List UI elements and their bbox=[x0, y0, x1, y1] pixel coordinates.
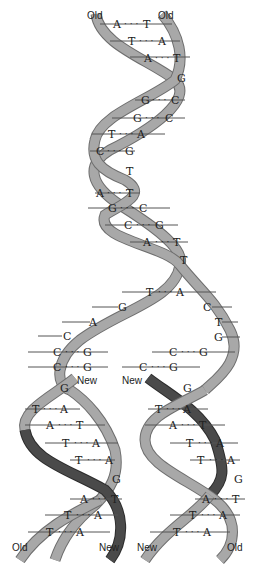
dots: · · · bbox=[92, 494, 106, 504]
dna-replication-diagram: A · · · T T · · · A A · · · T G G · · · … bbox=[0, 0, 264, 575]
dots: · · · bbox=[145, 113, 159, 123]
label-new-fork-right: New bbox=[122, 375, 143, 386]
label-old-top-left: Old bbox=[87, 10, 103, 21]
base: A bbox=[104, 454, 114, 467]
dots: · · · bbox=[201, 510, 215, 520]
base: T bbox=[215, 316, 223, 329]
dots: · · · bbox=[65, 362, 79, 372]
dots: · · · bbox=[58, 527, 72, 537]
base: A bbox=[201, 493, 211, 506]
base: A bbox=[136, 128, 146, 141]
base: G bbox=[125, 145, 134, 158]
base: A bbox=[175, 286, 185, 299]
base: A bbox=[218, 509, 228, 522]
dots: · · · bbox=[87, 455, 101, 465]
base: C bbox=[139, 202, 147, 215]
base: T bbox=[108, 128, 116, 141]
base: T bbox=[197, 454, 205, 467]
base: T bbox=[126, 165, 134, 178]
base: T bbox=[199, 419, 207, 432]
label-old-top-right: Old bbox=[158, 10, 174, 21]
strand-labels: Old Old New New Old New New Old bbox=[12, 10, 243, 553]
dots: · · · bbox=[136, 220, 150, 230]
label-new-bottom-3: New bbox=[137, 542, 158, 553]
dots: · · · bbox=[214, 494, 228, 504]
base: T bbox=[62, 437, 70, 450]
base: T bbox=[232, 493, 240, 506]
label-new-bottom-2: New bbox=[99, 542, 120, 553]
label-old-bottom-1: Old bbox=[12, 542, 28, 553]
dots: · · · bbox=[107, 188, 121, 198]
base: T bbox=[75, 454, 83, 467]
dots: · · · bbox=[124, 19, 138, 29]
base: T bbox=[126, 187, 134, 200]
base: T bbox=[111, 493, 119, 506]
dots: · · · bbox=[65, 347, 79, 357]
base: T bbox=[173, 52, 181, 65]
base: T bbox=[186, 437, 194, 450]
base: T bbox=[143, 18, 151, 31]
dots: · · · bbox=[158, 287, 172, 297]
base: C bbox=[53, 361, 61, 374]
base: C bbox=[63, 330, 71, 343]
base: T bbox=[173, 236, 181, 249]
dots: · · · bbox=[151, 362, 165, 372]
dots: · · · bbox=[58, 420, 72, 430]
dots: · · · bbox=[198, 438, 212, 448]
base: C bbox=[124, 219, 132, 232]
base: G bbox=[183, 382, 192, 395]
base: A bbox=[215, 437, 225, 450]
base: A bbox=[75, 526, 85, 539]
base: G bbox=[118, 301, 127, 314]
dots: · · · bbox=[185, 527, 199, 537]
label-new-fork-left: New bbox=[77, 375, 98, 386]
base: G bbox=[169, 361, 178, 374]
dots: · · · bbox=[120, 203, 134, 213]
base: G bbox=[177, 72, 186, 85]
base: A bbox=[59, 403, 69, 416]
base: T bbox=[46, 526, 54, 539]
dots: · · · bbox=[155, 53, 169, 63]
base: T bbox=[173, 526, 181, 539]
base: A bbox=[79, 493, 89, 506]
base: G bbox=[133, 112, 142, 125]
dots: · · · bbox=[181, 420, 195, 430]
base: G bbox=[108, 202, 117, 215]
dots: · · · bbox=[181, 347, 195, 357]
base: T bbox=[64, 509, 72, 522]
dots: · · · bbox=[209, 455, 223, 465]
dots: · · · bbox=[155, 237, 169, 247]
base: T bbox=[128, 35, 136, 48]
base: G bbox=[60, 382, 69, 395]
base: A bbox=[182, 403, 192, 416]
base: T bbox=[76, 419, 84, 432]
base: A bbox=[45, 419, 55, 432]
dots: · · · bbox=[166, 404, 180, 414]
base: A bbox=[142, 236, 152, 249]
label-old-bottom-4: Old bbox=[227, 542, 243, 553]
base: T bbox=[189, 509, 197, 522]
base: G bbox=[155, 219, 164, 232]
base: C bbox=[169, 346, 177, 359]
base: T bbox=[155, 403, 163, 416]
base: G bbox=[214, 331, 223, 344]
base: G bbox=[83, 346, 92, 359]
base: A bbox=[88, 316, 98, 329]
dots: · · · bbox=[76, 510, 90, 520]
base: A bbox=[157, 35, 167, 48]
base: C bbox=[139, 361, 147, 374]
base: G bbox=[112, 473, 121, 486]
base: C bbox=[171, 94, 179, 107]
dots: · · · bbox=[43, 404, 57, 414]
base: A bbox=[202, 526, 212, 539]
base: A bbox=[93, 509, 103, 522]
base: T bbox=[32, 403, 40, 416]
base: A bbox=[226, 454, 236, 467]
base: A bbox=[112, 18, 122, 31]
base: A bbox=[95, 187, 105, 200]
dots: · · · bbox=[139, 36, 153, 46]
base: C bbox=[96, 145, 104, 158]
base: G bbox=[234, 473, 243, 486]
dots: · · · bbox=[74, 438, 88, 448]
base: T bbox=[180, 254, 188, 267]
